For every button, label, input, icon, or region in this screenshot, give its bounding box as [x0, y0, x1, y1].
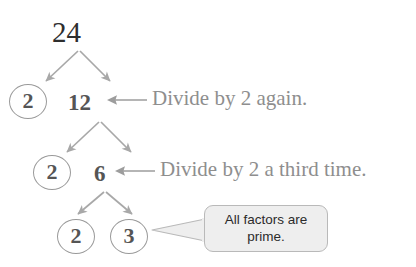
- callout-bubble: All factors are prime.: [204, 205, 328, 252]
- quotient-level-1: 12: [68, 91, 91, 114]
- annotation-level-2: Divide by 2 a third time.: [160, 159, 366, 180]
- branch-arrows-level-3: [66, 189, 152, 223]
- circled-factor-level-1: 2: [9, 84, 47, 119]
- final-circled-factor-right-label: 3: [124, 225, 135, 247]
- final-circled-factor-left: 2: [57, 219, 95, 254]
- branch-arrows-level-2: [58, 119, 144, 161]
- callout-line-2: prime.: [247, 229, 285, 244]
- callout-text: All factors are prime.: [225, 212, 308, 245]
- annotation-level-1: Divide by 2 again.: [152, 88, 307, 109]
- circled-factor-level-2: 2: [33, 155, 71, 190]
- root-number: 24: [52, 18, 81, 47]
- final-circled-factor-left-label: 2: [71, 225, 82, 247]
- pointer-arrow-level-2: [114, 163, 156, 179]
- circled-factor-level-1-label: 2: [23, 90, 34, 112]
- circled-factor-level-2-label: 2: [47, 161, 58, 183]
- factor-tree-diagram: 24 2 12 Divide by 2 again. 2: [0, 0, 416, 267]
- callout-tail: [150, 214, 212, 248]
- quotient-level-2: 6: [94, 162, 106, 185]
- final-circled-factor-right: 3: [110, 219, 148, 254]
- pointer-arrow-level-1: [106, 92, 148, 108]
- callout-line-1: All factors are: [225, 212, 308, 227]
- branch-arrows-level-1: [36, 48, 120, 90]
